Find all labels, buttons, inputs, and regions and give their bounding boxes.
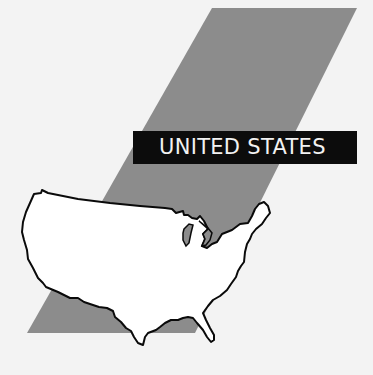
country-label-text: UNITED STATES [133,137,326,158]
map-artwork [0,0,373,375]
us-map-illustration: UNITED STATES [0,0,373,375]
country-label: UNITED STATES [133,131,357,164]
